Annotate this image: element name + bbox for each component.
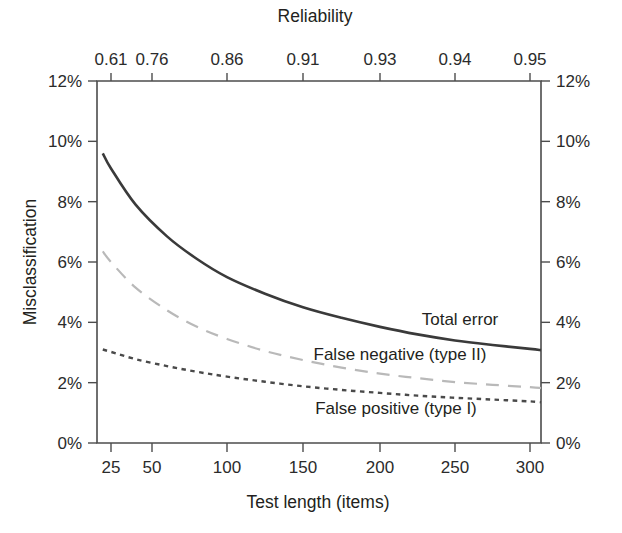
right-tick-label: 8% bbox=[556, 193, 581, 212]
series-lines bbox=[103, 153, 541, 402]
figure-container: 0.610.760.860.910.930.940.95 25501001502… bbox=[0, 0, 622, 533]
right-tick-label: 2% bbox=[556, 374, 581, 393]
top-tick-label: 0.61 bbox=[94, 50, 127, 69]
bottom-tick-label: 300 bbox=[516, 458, 544, 477]
top-tick-label: 0.76 bbox=[135, 50, 168, 69]
bottom-tick-label: 200 bbox=[366, 458, 394, 477]
right-tick-label: 6% bbox=[556, 253, 581, 272]
annotation-false-positive-type-i: False positive (type I) bbox=[315, 399, 477, 418]
bottom-tick-label: 25 bbox=[102, 458, 121, 477]
left-tick-label: 6% bbox=[57, 253, 82, 272]
left-tick-label: 2% bbox=[57, 374, 82, 393]
bottom-tick-label: 150 bbox=[289, 458, 317, 477]
right-tick-label: 12% bbox=[556, 72, 590, 91]
bottom-axis-title: Test length (items) bbox=[247, 492, 390, 512]
left-tick-label: 12% bbox=[48, 72, 82, 91]
misclassification-chart: 0.610.760.860.910.930.940.95 25501001502… bbox=[0, 0, 622, 533]
bottom-tick-label: 100 bbox=[213, 458, 241, 477]
top-tick-label: 0.86 bbox=[210, 50, 243, 69]
annotation-false-negative-type-ii: False negative (type II) bbox=[314, 345, 487, 364]
annotation-total-error: Total error bbox=[422, 310, 499, 329]
left-tick-label: 4% bbox=[57, 313, 82, 332]
right-tick-label: 10% bbox=[556, 132, 590, 151]
bottom-tick-label: 50 bbox=[143, 458, 162, 477]
bottom-axis-ticks: 2550100150200250300 bbox=[102, 443, 545, 477]
right-tick-label: 0% bbox=[556, 434, 581, 453]
left-tick-label: 10% bbox=[48, 132, 82, 151]
top-tick-label: 0.93 bbox=[363, 50, 396, 69]
series-annotations: Total errorFalse negative (type II)False… bbox=[314, 310, 499, 418]
left-tick-label: 0% bbox=[57, 434, 82, 453]
top-tick-label: 0.91 bbox=[286, 50, 319, 69]
left-axis-ticks: 0%2%4%6%8%10%12% bbox=[48, 72, 97, 453]
left-tick-label: 8% bbox=[57, 193, 82, 212]
right-tick-label: 4% bbox=[556, 313, 581, 332]
left-axis-title: Misclassification bbox=[20, 199, 40, 325]
top-axis-ticks: 0.610.760.860.910.930.940.95 bbox=[94, 50, 546, 81]
top-tick-label: 0.94 bbox=[438, 50, 471, 69]
top-tick-label: 0.95 bbox=[513, 50, 546, 69]
bottom-tick-label: 250 bbox=[441, 458, 469, 477]
top-axis-title: Reliability bbox=[278, 6, 353, 26]
right-axis-ticks: 0%2%4%6%8%10%12% bbox=[541, 72, 590, 453]
